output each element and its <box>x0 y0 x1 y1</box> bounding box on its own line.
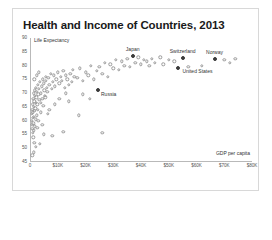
data-point[interactable] <box>103 61 106 64</box>
x-tick-label: $40K <box>136 164 147 169</box>
data-point[interactable] <box>153 61 156 64</box>
data-point[interactable] <box>39 91 42 94</box>
data-point[interactable] <box>64 73 67 76</box>
data-point[interactable] <box>81 93 84 96</box>
data-point-highlighted[interactable] <box>131 54 135 58</box>
data-point[interactable] <box>42 133 45 136</box>
data-point[interactable] <box>35 73 38 76</box>
x-axis-label: GDP per capita <box>216 150 250 156</box>
data-point[interactable] <box>148 64 151 67</box>
data-point[interactable] <box>106 75 109 78</box>
data-point[interactable] <box>34 145 37 148</box>
data-point[interactable] <box>52 73 55 76</box>
data-point[interactable] <box>64 91 67 94</box>
data-point[interactable] <box>59 75 62 78</box>
data-point[interactable] <box>228 61 231 64</box>
data-point[interactable] <box>50 87 53 90</box>
data-point[interactable] <box>31 153 34 156</box>
data-point[interactable] <box>40 85 43 88</box>
data-point[interactable] <box>41 123 44 126</box>
data-point[interactable] <box>159 56 162 59</box>
data-point[interactable] <box>55 78 58 81</box>
data-point-highlighted[interactable] <box>96 88 100 92</box>
data-point[interactable] <box>137 56 140 59</box>
data-point[interactable] <box>57 97 60 100</box>
data-point[interactable] <box>48 108 51 111</box>
data-point[interactable] <box>32 129 35 132</box>
data-point[interactable] <box>150 57 153 60</box>
data-point[interactable] <box>223 58 226 61</box>
data-point[interactable] <box>37 87 40 90</box>
data-point[interactable] <box>66 78 69 81</box>
data-point[interactable] <box>33 78 36 81</box>
data-point[interactable] <box>46 112 49 115</box>
data-point[interactable] <box>39 111 42 114</box>
data-point[interactable] <box>44 96 47 99</box>
data-point[interactable] <box>112 67 115 70</box>
data-point[interactable] <box>109 62 112 65</box>
data-point[interactable] <box>100 72 103 75</box>
data-point[interactable] <box>114 58 117 61</box>
data-point[interactable] <box>75 76 78 79</box>
data-point[interactable] <box>95 69 98 72</box>
data-point-highlighted[interactable] <box>176 66 180 70</box>
data-point[interactable] <box>125 57 128 60</box>
data-point[interactable] <box>63 86 66 89</box>
data-point[interactable] <box>46 90 49 93</box>
data-point[interactable] <box>42 82 45 85</box>
data-point[interactable] <box>47 76 50 79</box>
data-point[interactable] <box>173 60 176 63</box>
data-point[interactable] <box>88 97 91 100</box>
data-point[interactable] <box>234 57 237 60</box>
data-point[interactable] <box>31 131 34 134</box>
data-point[interactable] <box>35 113 38 116</box>
data-point[interactable] <box>87 73 90 76</box>
data-point[interactable] <box>36 83 39 86</box>
data-point[interactable] <box>57 82 60 85</box>
data-point[interactable] <box>60 79 63 82</box>
data-point[interactable] <box>44 79 47 82</box>
data-point[interactable] <box>53 102 56 105</box>
data-point[interactable] <box>167 58 170 61</box>
data-point[interactable] <box>128 65 131 68</box>
data-point[interactable] <box>45 86 48 89</box>
data-point[interactable] <box>98 65 101 68</box>
data-point[interactable] <box>161 62 164 65</box>
data-point[interactable] <box>81 79 84 82</box>
data-point[interactable] <box>50 134 53 137</box>
y-tick-label: 45 <box>22 160 27 165</box>
data-point[interactable] <box>38 80 41 83</box>
data-point[interactable] <box>117 68 120 71</box>
data-point[interactable] <box>70 80 73 83</box>
data-point[interactable] <box>67 83 70 86</box>
data-point[interactable] <box>120 60 123 63</box>
data-point[interactable] <box>77 113 80 116</box>
data-point[interactable] <box>92 78 95 81</box>
data-point[interactable] <box>71 68 74 71</box>
data-point[interactable] <box>42 104 45 107</box>
data-point[interactable] <box>38 142 41 145</box>
data-point[interactable] <box>123 64 126 67</box>
data-point[interactable] <box>56 71 59 74</box>
data-point[interactable] <box>53 85 56 88</box>
data-point[interactable] <box>134 61 137 64</box>
data-point[interactable] <box>69 72 72 75</box>
data-point[interactable] <box>67 100 70 103</box>
data-point-highlighted[interactable] <box>213 57 217 61</box>
data-point[interactable] <box>37 71 40 74</box>
data-point[interactable] <box>62 130 65 133</box>
data-point[interactable] <box>36 126 39 129</box>
data-point[interactable] <box>100 131 103 134</box>
data-point[interactable] <box>48 83 51 86</box>
data-point[interactable] <box>51 80 54 83</box>
data-point[interactable] <box>33 141 36 144</box>
data-point[interactable] <box>32 135 35 138</box>
data-point[interactable] <box>78 67 81 70</box>
data-point[interactable] <box>145 60 148 63</box>
data-point[interactable] <box>62 69 65 72</box>
data-point[interactable] <box>37 119 40 122</box>
data-point[interactable] <box>200 64 203 67</box>
data-point[interactable] <box>139 62 142 65</box>
data-point-highlighted[interactable] <box>181 56 185 60</box>
data-point[interactable] <box>89 64 92 67</box>
